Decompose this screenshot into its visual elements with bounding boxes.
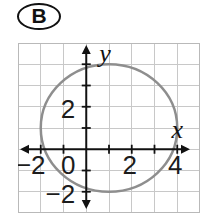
circle-graph-svg: −2242−20xy xyxy=(18,43,200,213)
y-tick-label: 2 xyxy=(61,94,75,124)
y-axis-label: y xyxy=(96,43,111,68)
y-axis-arrow-up xyxy=(82,45,91,54)
y-tick-label: −2 xyxy=(46,179,76,209)
origin-label: 0 xyxy=(61,150,75,180)
x-axis-label: x xyxy=(170,115,183,144)
x-tick-label: 2 xyxy=(123,150,137,180)
x-tick-label: 4 xyxy=(168,150,182,180)
answer-choice-letter: B xyxy=(31,5,46,26)
x-tick-label: −2 xyxy=(18,150,46,180)
worksheet-figure: B −2242−20xy xyxy=(0,0,207,224)
coordinate-grid: −2242−20xy xyxy=(18,43,200,213)
y-axis-arrow-down xyxy=(82,200,91,209)
answer-choice-badge: B xyxy=(17,3,61,30)
